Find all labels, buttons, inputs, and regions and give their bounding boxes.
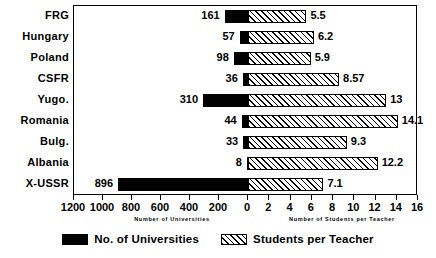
bar-universities [225,10,248,23]
tick-label-students-per-teacher: 0 [244,201,250,214]
axis-tick [247,195,248,200]
bar-students-per-teacher [248,157,378,170]
category-label: Hungary [22,30,69,43]
bar-students-per-teacher [248,115,398,128]
value-label-universities: 896 [95,177,113,190]
axis-tick [160,195,161,200]
category-label: CSFR [38,72,69,85]
value-label-universities: 36 [226,72,238,85]
axis-title-students-per-teacher: Number of Students per Teacher [289,216,395,222]
category-label: Yugo. [38,93,69,106]
tick-label-students-per-teacher: 2 [265,201,271,214]
axis-tick [268,195,269,200]
legend-swatch-hatch-icon [221,234,247,245]
tick-label-students-per-teacher: 10 [347,201,359,214]
value-label-universities: 8 [236,156,242,169]
bar-students-per-teacher [248,31,314,44]
value-label-universities: 57 [223,30,235,43]
axis-tick [102,195,103,200]
value-label-students-per-teacher: 5.5 [310,9,325,22]
axis-tick [189,195,190,200]
tick-label-universities: 1200 [61,201,85,214]
tick-label-universities: 800 [122,201,140,214]
value-label-students-per-teacher: 8.57 [343,72,364,85]
bar-students-per-teacher [248,94,386,107]
legend-swatch-solid-icon [62,234,88,245]
category-label: FRG [45,9,69,22]
value-label-students-per-teacher: 5.9 [315,51,330,64]
tick-label-students-per-teacher: 12 [368,201,380,214]
bar-students-per-teacher [248,178,323,191]
bar-students-per-teacher [248,136,347,149]
tick-label-universities: 400 [180,201,198,214]
value-label-universities: 44 [224,114,236,127]
legend: No. of Universities Students per Teacher [0,233,436,245]
value-label-students-per-teacher: 6.2 [318,30,333,43]
value-label-students-per-teacher: 12.2 [382,156,403,169]
legend-label-students-per-teacher: Students per Teacher [253,233,374,245]
legend-item-universities: No. of Universities [62,233,199,245]
category-label: X-USSR [26,177,69,190]
axis-tick [73,195,74,200]
axis-tick [311,195,312,200]
category-label: Romania [20,114,69,127]
value-label-universities: 310 [180,93,198,106]
value-label-universities: 161 [201,9,219,22]
tick-label-universities: 1000 [90,201,114,214]
tick-label-universities: 600 [151,201,169,214]
bar-universities [203,94,248,107]
axis-tick [375,195,376,200]
legend-label-universities: No. of Universities [94,233,199,245]
bar-universities [240,31,248,44]
bar-chart: FRGHungaryPolandCSFRYugo.RomaniaBulg.Alb… [0,0,436,258]
bar-universities [234,52,248,65]
category-label: Albania [27,156,69,169]
axis-tick [353,195,354,200]
tick-label-students-per-teacher: 14 [390,201,402,214]
axis-tick [332,195,333,200]
value-label-students-per-teacher: 14.1 [402,114,423,127]
bar-students-per-teacher [248,10,306,23]
axis-tick [218,195,219,200]
category-label: Bulg. [40,135,69,148]
axis-tick [417,195,418,200]
tick-label-students-per-teacher: 8 [329,201,335,214]
axis-tick [396,195,397,200]
tick-label-students-per-teacher: 16 [411,201,423,214]
bar-students-per-teacher [248,73,339,86]
bar-universities [118,178,248,191]
value-label-students-per-teacher: 7.1 [327,177,342,190]
axis-title-universities: Number of Universities [134,216,210,222]
value-label-universities: 33 [226,135,238,148]
bar-students-per-teacher [248,52,311,65]
value-label-universities: 98 [217,51,229,64]
axis-tick [290,195,291,200]
axis-tick [131,195,132,200]
legend-item-students-per-teacher: Students per Teacher [221,233,374,245]
tick-label-universities: 200 [209,201,227,214]
category-label: Poland [31,51,69,64]
plot-area [73,5,417,195]
value-label-students-per-teacher: 13 [390,93,402,106]
tick-label-students-per-teacher: 6 [308,201,314,214]
value-label-students-per-teacher: 9.3 [351,135,366,148]
tick-label-students-per-teacher: 4 [286,201,292,214]
